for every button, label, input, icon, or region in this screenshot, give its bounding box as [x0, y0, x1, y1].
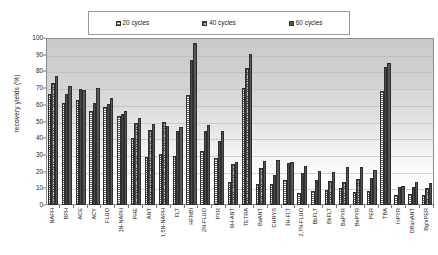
x-label-cell: ACE [74, 208, 88, 254]
y-tick-label: 50 [3, 118, 43, 124]
x-label-cell: TBA [379, 208, 393, 254]
x-tick-label: 3H-FLT [286, 208, 292, 227]
gridline [47, 189, 433, 190]
x-tick-label: BaANT [258, 208, 264, 226]
x-tick-label: NAPH [50, 208, 56, 224]
x-label-cell: PHE [129, 208, 143, 254]
x-label-cell: BkFLT [323, 208, 337, 254]
x-tick-label: BPH [64, 208, 70, 220]
x-label-cell: HFNBI [185, 208, 199, 254]
y-tick-label: 100 [3, 35, 43, 41]
chart-legend: 20 cycles 40 cycles 60 cycles [88, 11, 350, 35]
y-tick-label: 0 [3, 202, 43, 208]
x-label-cell: BbFLT [309, 208, 323, 254]
legend-swatch-60-cycles [289, 21, 294, 26]
x-label-cell: PER [365, 208, 379, 254]
x-tick-label: PHE [133, 208, 139, 220]
x-tick-label: TBA [383, 208, 389, 219]
x-tick-label: TETRA [244, 208, 250, 226]
x-tick-label: BePYR [355, 208, 361, 226]
x-tick-label: BghiPER [424, 208, 430, 231]
gridline [47, 123, 433, 124]
x-label-cell: DBahANT [406, 208, 420, 254]
x-tick-label: BkFLT [327, 208, 333, 224]
x-label-cell: BePYR [351, 208, 365, 254]
x-label-cell: InPYR [392, 208, 406, 254]
x-label-cell: PYR [212, 208, 226, 254]
legend-item-20-cycles: 20 cycles [116, 20, 150, 26]
x-label-cell: FLUO [101, 208, 115, 254]
legend-label-60-cycles: 60 cycles [296, 20, 323, 26]
legend-item-60-cycles: 60 cycles [289, 20, 323, 26]
x-label-cell: BPH [60, 208, 74, 254]
x-tick-label: BbFLT [313, 208, 319, 224]
y-tick-label: 40 [3, 135, 43, 141]
x-label-cell: BghiPER [420, 208, 434, 254]
bar-chart: 20 cycles 40 cycles 60 cycles recovery y… [0, 0, 438, 255]
x-label-cell: BaPYR [337, 208, 351, 254]
legend-swatch-20-cycles [116, 21, 121, 26]
y-axis-ticks: 1009080706050403020100 [0, 38, 43, 205]
x-tick-label: 1,5N-NAPH [161, 208, 167, 237]
y-tick-label: 90 [3, 51, 43, 57]
x-tick-label: ACE [78, 208, 84, 220]
y-tick-label: 70 [3, 85, 43, 91]
legend-item-40-cycles: 40 cycles [202, 20, 236, 26]
x-label-cell: NAPH [46, 208, 60, 254]
legend-label-40-cycles: 40 cycles [209, 20, 236, 26]
x-label-cell: TETRA [240, 208, 254, 254]
gridline [47, 56, 433, 57]
y-tick-label: 80 [3, 68, 43, 74]
plot-area [46, 38, 434, 205]
x-tick-label: PYR [216, 208, 222, 220]
gridline [47, 156, 433, 157]
x-tick-label: BaPYR [341, 208, 347, 226]
x-tick-label: FLT [175, 208, 181, 218]
x-tick-label: PER [369, 208, 375, 220]
x-tick-label: HFNBI [189, 208, 195, 225]
x-tick-label: CHRYS [272, 208, 278, 227]
legend-label-20-cycles: 20 cycles [123, 20, 150, 26]
x-tick-label: InPYR [397, 208, 403, 224]
gridline [47, 139, 433, 140]
x-axis-labels: NAPHBPHACEACYFLUO1N-NAPHPHEANT1,5N-NAPHF… [46, 208, 434, 254]
x-label-cell: 2,7N-FLUO [295, 208, 309, 254]
x-tick-label: FLUO [106, 208, 112, 223]
y-tick-label: 30 [3, 152, 43, 158]
gridline [47, 173, 433, 174]
legend-swatch-40-cycles [202, 21, 207, 26]
x-label-cell: 3H-FLT [282, 208, 296, 254]
x-label-cell: 1N-NAPH [115, 208, 129, 254]
x-label-cell: 9H-ANT [226, 208, 240, 254]
gridline [47, 72, 433, 73]
y-tick-label: 20 [3, 168, 43, 174]
x-label-cell: BaANT [254, 208, 268, 254]
x-tick-label: 1N-NAPH [119, 208, 125, 233]
x-label-cell: ANT [143, 208, 157, 254]
gridline [47, 106, 433, 107]
y-tick-label: 10 [3, 185, 43, 191]
x-label-cell: FLT [171, 208, 185, 254]
x-tick-label: 2,7N-FLUO [300, 208, 306, 237]
x-label-cell: 1,5N-NAPH [157, 208, 171, 254]
x-tick-label: 9H-ANT [230, 208, 236, 228]
x-tick-label: ACY [92, 208, 98, 220]
y-tick-label: 60 [3, 102, 43, 108]
x-tick-label: 2N-FLUO [203, 208, 209, 232]
x-tick-label: DBahANT [410, 208, 416, 233]
x-label-cell: ACY [88, 208, 102, 254]
x-label-cell: 2N-FLUO [198, 208, 212, 254]
x-label-cell: CHRYS [268, 208, 282, 254]
x-tick-label: ANT [147, 208, 153, 219]
gridline [47, 89, 433, 90]
